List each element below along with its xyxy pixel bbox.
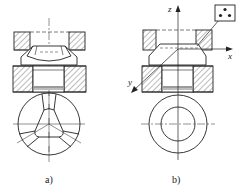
punch-a xyxy=(21,46,77,65)
caption-a: a) xyxy=(45,175,53,185)
caption-b: b) xyxy=(172,175,180,185)
z-axis-label: z xyxy=(168,5,172,14)
z-arrow-icon xyxy=(176,5,181,12)
lower-die-right-b xyxy=(193,66,213,92)
diagram-canvas xyxy=(0,0,240,196)
upper-die-left-b xyxy=(143,30,156,50)
punch-b xyxy=(149,44,206,65)
lower-die-left xyxy=(13,66,33,92)
upper-die-left xyxy=(14,32,30,50)
symbol-box xyxy=(215,5,235,21)
figure-b xyxy=(131,5,235,160)
upper-die-right xyxy=(69,32,85,50)
lower-die-right xyxy=(64,66,86,92)
x-axis-label: x xyxy=(228,52,232,61)
figure-a xyxy=(13,18,86,162)
y-axis-label: y xyxy=(128,78,132,87)
lower-die-left-b xyxy=(142,66,162,92)
